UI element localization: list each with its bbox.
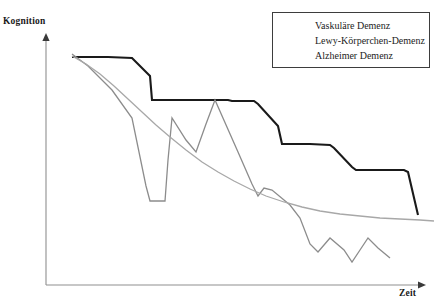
legend-item-lewy-koerperchen-demenz: Lewy-Körperchen-Demenz xyxy=(273,33,429,48)
chart-legend: Vaskuläre Demenz Lewy-Körperchen-Demenz … xyxy=(272,12,430,68)
series-line-alzheimer-demenz xyxy=(72,56,434,221)
legend-label-vaskulaere-demenz: Vaskuläre Demenz xyxy=(315,20,390,32)
right-arrow-icon xyxy=(418,281,426,288)
y-axis-label: Kognition xyxy=(3,16,45,26)
x-axis-label: Zeit xyxy=(399,288,416,298)
dementia-progression-chart: Kognition Zeit Vaskuläre Demenz Lewy-Kör… xyxy=(0,0,444,303)
legend-item-alzheimer-demenz: Alzheimer Demenz xyxy=(273,48,429,63)
series-line-vaskulaere-demenz xyxy=(72,57,418,215)
legend-label-alzheimer-demenz: Alzheimer Demenz xyxy=(315,50,393,62)
legend-label-lewy-koerperchen-demenz: Lewy-Körperchen-Demenz xyxy=(315,35,425,47)
legend-item-vaskulaere-demenz: Vaskuläre Demenz xyxy=(273,18,429,33)
up-arrow-icon xyxy=(42,33,49,41)
series-group xyxy=(72,54,434,262)
axes-group xyxy=(42,33,426,289)
